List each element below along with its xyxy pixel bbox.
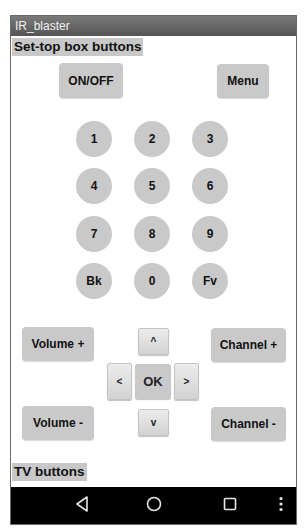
key-1[interactable]: 1 (76, 121, 112, 157)
dpad-left-button[interactable]: < (107, 363, 132, 400)
volume-up-button[interactable]: Volume + (22, 327, 94, 361)
dpad-down-button[interactable]: v (138, 409, 169, 436)
settop-section-label: Set-top box buttons (12, 38, 143, 56)
key-back[interactable]: Bk (76, 263, 112, 299)
channel-down-button[interactable]: Channel - (211, 407, 286, 441)
system-nav-bar (11, 487, 296, 524)
nav-recents-button[interactable] (215, 487, 245, 524)
key-0[interactable]: 0 (134, 263, 170, 299)
recents-icon (223, 497, 237, 515)
home-icon (146, 496, 162, 516)
channel-up-button[interactable]: Channel + (211, 328, 286, 362)
overflow-menu-icon (279, 496, 283, 516)
key-4[interactable]: 4 (76, 168, 112, 204)
key-favorite[interactable]: Fv (192, 263, 228, 299)
key-6[interactable]: 6 (192, 168, 228, 204)
key-5[interactable]: 5 (134, 168, 170, 204)
app-title-bar: IR_blaster (11, 16, 296, 36)
key-9[interactable]: 9 (192, 216, 228, 252)
app-title: IR_blaster (15, 19, 70, 33)
dpad-right-button[interactable]: > (174, 363, 199, 400)
back-icon (75, 496, 89, 516)
menu-button[interactable]: Menu (217, 64, 269, 98)
nav-back-button[interactable] (67, 487, 97, 524)
key-2[interactable]: 2 (134, 121, 170, 157)
dpad-up-button[interactable]: ^ (138, 328, 169, 355)
nav-home-button[interactable] (139, 487, 169, 524)
nav-overflow-button[interactable] (266, 487, 296, 524)
dpad-ok-button[interactable]: OK (135, 364, 171, 399)
key-8[interactable]: 8 (134, 216, 170, 252)
app-window: IR_blaster Set-top box buttons ON/OFF Me… (10, 15, 297, 525)
volume-down-button[interactable]: Volume - (22, 406, 94, 440)
key-3[interactable]: 3 (192, 121, 228, 157)
tv-section-label: TV buttons (12, 463, 87, 481)
key-7[interactable]: 7 (76, 216, 112, 252)
power-button[interactable]: ON/OFF (59, 63, 123, 98)
